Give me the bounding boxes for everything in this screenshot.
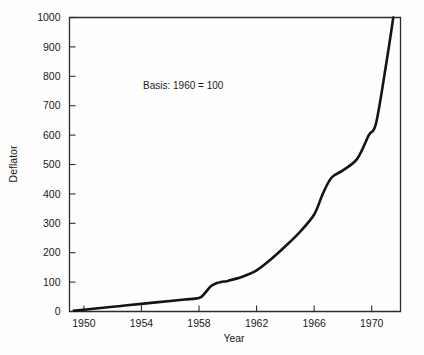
figure-container: 01002003004005006007008009001000 1950195… (0, 0, 424, 355)
deflator-series-line (74, 18, 393, 311)
y-axis-tick-labels: 01002003004005006007008009001000 (37, 11, 61, 317)
x-axis-title: Year (223, 332, 245, 344)
x-axis-tick-labels: 195019541958196219661970 (72, 317, 383, 329)
y-tick-label: 0 (55, 305, 61, 317)
x-tick-label: 1954 (130, 317, 154, 329)
y-axis-title: Deflator (7, 145, 19, 182)
x-tick-label: 1958 (187, 317, 211, 329)
y-tick-label: 100 (43, 276, 61, 288)
y-tick-label: 400 (43, 188, 61, 200)
series-group (74, 18, 393, 311)
y-tick-label: 700 (43, 99, 61, 111)
y-tick-label: 800 (43, 70, 61, 82)
x-tick-label: 1962 (245, 317, 269, 329)
y-tick-label: 1000 (37, 11, 61, 23)
y-tick-label: 200 (43, 246, 61, 258)
y-tick-label: 500 (43, 158, 61, 170)
y-tick-label: 600 (43, 129, 61, 141)
y-tick-label: 300 (43, 217, 61, 229)
deflator-line-chart: 01002003004005006007008009001000 1950195… (0, 0, 424, 355)
x-tick-label: 1950 (72, 317, 96, 329)
x-tick-label: 1970 (360, 317, 384, 329)
y-axis-tick-group (70, 18, 76, 312)
basis-annotation: Basis: 1960 = 100 (143, 80, 224, 91)
x-tick-label: 1966 (302, 317, 326, 329)
y-tick-label: 900 (43, 41, 61, 53)
